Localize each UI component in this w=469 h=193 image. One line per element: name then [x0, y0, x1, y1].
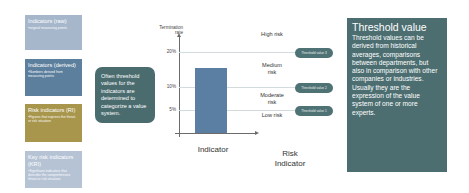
threshold-value-2: Threshold value 2	[295, 83, 333, 93]
tick-20: 20%	[156, 49, 176, 54]
gridline-20	[179, 52, 295, 53]
indicator-bar	[195, 68, 227, 133]
category-desc: •original measuring points	[28, 26, 79, 30]
category-title: Indicators (raw)	[28, 18, 79, 25]
threshold-value-body: Threshold values can be derived from his…	[352, 34, 442, 117]
category-title: Indicators (derived)	[28, 62, 79, 69]
category-desc: •Significant indicators that describe th…	[28, 169, 79, 182]
threshold-value-1: Threshold value 1	[295, 106, 333, 116]
category-desc: •Figures that express the threat or risk…	[28, 115, 79, 123]
category-indicators-derived: Indicators (derived) •Numbers derived fr…	[25, 59, 82, 96]
category-key-risk-indicators: Key risk indicators (KRI) •Significant i…	[25, 151, 82, 188]
category-risk-indicators: Risk indicators (RI) •Figures that expre…	[25, 104, 82, 142]
category-title: Risk indicators (RI)	[28, 107, 79, 114]
x-label-risk-indicator: Risk Indicator	[270, 149, 310, 169]
x-label-indicator: Indicator	[188, 145, 238, 155]
zone-medium-risk: Medium risk	[258, 62, 286, 76]
threshold-value-3: Threshold value 3	[295, 48, 333, 58]
threshold-value-title: Threshold value	[352, 21, 442, 34]
zone-moderate-risk: Moderate risk	[257, 92, 287, 106]
y-axis-arrow-icon	[177, 33, 181, 37]
category-desc: •Numbers derived from measuring points	[28, 70, 79, 78]
x-axis	[175, 133, 255, 134]
zone-low-risk: Low risk	[250, 112, 294, 119]
category-indicators-raw: Indicators (raw) •original measuring poi…	[25, 15, 82, 50]
x-axis-arrow-icon	[255, 131, 259, 135]
threshold-value-box: Threshold value Threshold values can be …	[347, 18, 447, 172]
category-title: Key risk indicators (KRI)	[28, 154, 79, 168]
threshold-note: Often threshold values for the indicator…	[95, 67, 155, 123]
tick-5: 5%	[156, 107, 176, 112]
tick-10: 10%	[156, 84, 176, 89]
zone-high-risk: High risk	[260, 31, 284, 38]
